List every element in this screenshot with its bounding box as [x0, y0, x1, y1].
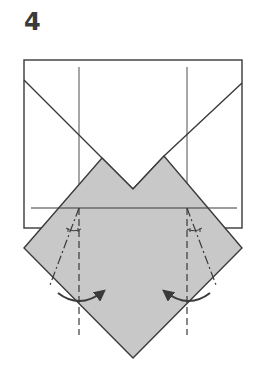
- origami-diagram: [0, 0, 273, 387]
